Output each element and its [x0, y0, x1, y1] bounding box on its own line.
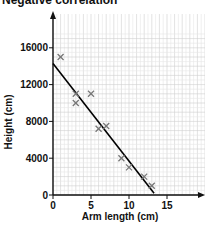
y-tick-label: 0 [42, 190, 48, 201]
x-tick-label: 10 [123, 200, 135, 211]
x-tick-label: 15 [161, 200, 173, 211]
y-tick-label: 12000 [20, 79, 48, 90]
y-tick-label: 4000 [26, 153, 49, 164]
x-tick-label: 5 [88, 200, 94, 211]
scatter-chart: 0510150400080001200016000 Arm length (cm… [0, 0, 205, 225]
axes [50, 11, 205, 198]
x-axis-label: Arm length (cm) [82, 211, 159, 222]
y-axis-label: Height (cm) [3, 95, 14, 150]
x-tick-label: 0 [50, 200, 56, 211]
y-tick-label: 16000 [20, 42, 48, 53]
y-tick-label: 8000 [26, 116, 49, 127]
